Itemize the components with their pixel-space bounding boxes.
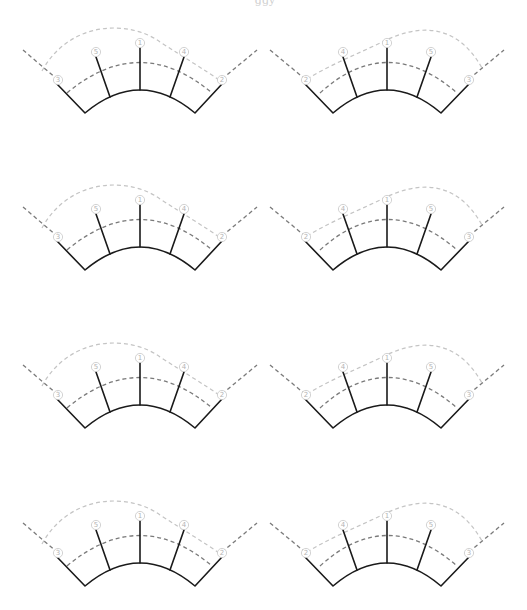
outer-arc-guide <box>42 185 219 237</box>
left-extension-line <box>270 523 305 552</box>
label-number: 2 <box>220 391 224 399</box>
circled-number-5: 5 <box>426 520 435 529</box>
spoke-1 <box>96 530 110 570</box>
label-number: 4 <box>341 363 346 371</box>
diagram-panel-r4-left: 35142 <box>23 501 257 586</box>
spoke-1 <box>343 214 357 254</box>
circled-number-4: 4 <box>338 520 347 529</box>
left-extension-line <box>23 365 57 394</box>
label-number: 1 <box>385 512 389 520</box>
outer-arc-guide <box>307 30 482 79</box>
right-extension-line <box>222 50 257 79</box>
spoke-3 <box>170 372 184 412</box>
label-number: 4 <box>182 363 187 371</box>
right-extension-line <box>469 365 504 394</box>
outer-arc-guide <box>42 501 219 553</box>
circled-number-3: 3 <box>53 548 62 557</box>
label-number: 2 <box>304 76 308 84</box>
left-extension-line <box>23 207 57 236</box>
label-number: 3 <box>56 76 60 84</box>
right-extension-line <box>469 523 504 552</box>
circled-number-5: 5 <box>426 362 435 371</box>
circled-number-2: 2 <box>217 548 226 557</box>
label-number: 3 <box>467 549 471 557</box>
label-number: 1 <box>385 196 389 204</box>
circled-number-3: 3 <box>53 232 62 241</box>
label-number: 3 <box>56 233 60 241</box>
right-extension-line <box>469 50 504 79</box>
spoke-1 <box>343 57 357 97</box>
spoke-3 <box>417 530 431 570</box>
label-number: 3 <box>467 233 471 241</box>
left-extension-line <box>270 365 305 394</box>
spoke-3 <box>417 372 431 412</box>
circled-number-2: 2 <box>301 390 310 399</box>
spoke-3 <box>170 214 184 254</box>
left-extension-line <box>270 50 305 79</box>
circled-number-3: 3 <box>53 75 62 84</box>
label-number: 5 <box>429 363 433 371</box>
label-number: 4 <box>182 205 187 213</box>
label-number: 1 <box>138 196 142 204</box>
label-number: 2 <box>304 549 308 557</box>
diagram-canvas: 3514224153351422415335142241533514224153 <box>0 0 527 610</box>
circled-number-1: 1 <box>382 38 391 47</box>
circled-number-1: 1 <box>382 511 391 520</box>
circled-number-5: 5 <box>426 47 435 56</box>
circled-number-2: 2 <box>301 75 310 84</box>
circled-number-2: 2 <box>217 232 226 241</box>
label-number: 2 <box>304 233 308 241</box>
spoke-1 <box>96 372 110 412</box>
circled-number-4: 4 <box>179 204 188 213</box>
circled-number-1: 1 <box>382 353 391 362</box>
outer-arc-guide <box>307 187 482 236</box>
label-number: 2 <box>304 391 308 399</box>
right-extension-line <box>469 207 504 236</box>
circled-number-1: 1 <box>135 353 144 362</box>
outer-arc-guide <box>42 343 219 395</box>
diagram-panel-r2-right: 24153 <box>270 187 504 270</box>
label-number: 2 <box>220 549 224 557</box>
label-number: 5 <box>94 48 98 56</box>
circled-number-5: 5 <box>426 204 435 213</box>
label-number: 1 <box>138 39 142 47</box>
outer-arc-guide <box>307 345 482 394</box>
circled-number-1: 1 <box>135 511 144 520</box>
label-number: 5 <box>94 363 98 371</box>
label-number: 1 <box>138 512 142 520</box>
circled-number-5: 5 <box>91 520 100 529</box>
spoke-3 <box>417 57 431 97</box>
diagram-panel-r4-right: 24153 <box>270 503 504 586</box>
circled-number-1: 1 <box>135 38 144 47</box>
circled-number-1: 1 <box>135 195 144 204</box>
outer-arc-guide <box>307 503 482 552</box>
circled-number-3: 3 <box>464 390 473 399</box>
left-extension-line <box>270 207 305 236</box>
diagram-panel-r1-right: 24153 <box>270 30 504 113</box>
label-number: 5 <box>94 521 98 529</box>
label-number: 2 <box>220 233 224 241</box>
label-number: 3 <box>467 391 471 399</box>
spoke-1 <box>343 372 357 412</box>
diagram-panel-r3-left: 35142 <box>23 343 257 428</box>
label-number: 5 <box>429 205 433 213</box>
diagram-panel-r3-right: 24153 <box>270 345 504 428</box>
label-number: 1 <box>138 354 142 362</box>
label-number: 3 <box>467 76 471 84</box>
circled-number-4: 4 <box>179 362 188 371</box>
circled-number-4: 4 <box>338 362 347 371</box>
label-number: 4 <box>182 48 187 56</box>
circled-number-3: 3 <box>464 232 473 241</box>
left-extension-line <box>23 523 57 552</box>
circled-number-5: 5 <box>91 47 100 56</box>
inner-arc-guide <box>320 378 457 409</box>
label-number: 5 <box>429 521 433 529</box>
spoke-3 <box>170 530 184 570</box>
right-extension-line <box>222 207 257 236</box>
outer-arc-guide <box>42 28 219 80</box>
spoke-1 <box>343 530 357 570</box>
left-extension-line <box>23 50 57 79</box>
circled-number-4: 4 <box>338 47 347 56</box>
circled-number-4: 4 <box>179 520 188 529</box>
circled-number-3: 3 <box>464 75 473 84</box>
